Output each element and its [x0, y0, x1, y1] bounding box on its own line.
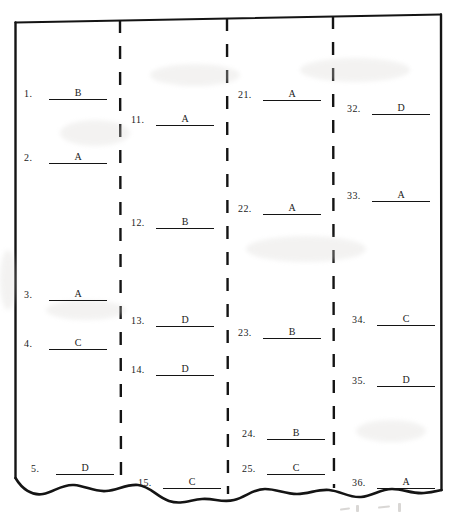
entry-answer[interactable]: D: [56, 462, 114, 475]
answer-entry: 32. D: [347, 103, 430, 116]
entry-number: 13.: [131, 315, 153, 326]
entry-answer[interactable]: A: [377, 476, 435, 489]
entry-number: 33.: [347, 190, 369, 201]
entry-answer[interactable]: A: [49, 151, 107, 164]
entry-number: 23.: [238, 327, 260, 338]
entry-answer[interactable]: C: [49, 337, 107, 350]
entry-number: 5.: [31, 463, 53, 474]
entry-number: 11.: [131, 114, 153, 125]
column-separator-1: [120, 20, 121, 481]
entry-number: 2.: [24, 152, 46, 163]
entry-number: 1.: [24, 88, 46, 99]
entry-answer[interactable]: A: [263, 202, 321, 215]
answer-entry: 5. D: [31, 463, 114, 476]
entry-answer[interactable]: D: [372, 102, 430, 115]
entry-number: 3.: [24, 289, 46, 300]
entry-number: 24.: [242, 428, 264, 439]
answer-sheet-fragment: 1. B 2. A 3. A 4. C 5. D 11. A 12. B 13.…: [0, 0, 458, 521]
entry-answer[interactable]: C: [267, 462, 325, 475]
scan-artifact: [356, 505, 359, 512]
answer-entry: 14. D: [131, 364, 214, 377]
answer-entry: 15. C: [138, 477, 221, 490]
entry-number: 14.: [131, 364, 153, 375]
answer-entry: 13. D: [131, 315, 214, 328]
paper-outline: [0, 0, 458, 521]
entry-answer[interactable]: C: [377, 313, 435, 326]
answer-entry: 36. A: [352, 477, 435, 490]
answer-entry: 23. B: [238, 327, 321, 340]
entry-number: 22.: [238, 203, 260, 214]
answer-entry: 1. B: [24, 88, 107, 101]
border-right: [441, 15, 442, 491]
answer-entry: 33. A: [347, 190, 430, 203]
answer-entry: 2. A: [24, 152, 107, 165]
entry-answer[interactable]: B: [267, 427, 325, 440]
entry-answer[interactable]: A: [263, 88, 321, 101]
entry-answer[interactable]: A: [156, 113, 214, 126]
entry-number: 35.: [352, 375, 374, 386]
answer-entry: 3. A: [24, 289, 107, 302]
scan-artifact: [398, 503, 401, 512]
answer-entry: 35. D: [352, 375, 435, 388]
column-separator-3: [333, 16, 334, 488]
answer-entry: 21. A: [238, 89, 321, 102]
entry-number: 36.: [352, 477, 374, 488]
border-top: [16, 15, 442, 23]
entry-answer[interactable]: C: [163, 476, 221, 489]
entry-answer[interactable]: A: [49, 288, 107, 301]
answer-entry: 11. A: [131, 114, 214, 127]
answer-entry: 25. C: [242, 463, 325, 476]
entry-answer[interactable]: B: [263, 326, 321, 339]
entry-number: 21.: [238, 89, 260, 100]
answer-entry: 24. B: [242, 428, 325, 441]
answer-entry: 12. B: [131, 217, 214, 230]
entry-number: 34.: [352, 314, 374, 325]
entry-number: 4.: [24, 338, 46, 349]
entry-number: 32.: [347, 103, 369, 114]
entry-number: 25.: [242, 463, 264, 474]
entry-answer[interactable]: D: [156, 314, 214, 327]
answer-entry: 4. C: [24, 338, 107, 351]
answer-entry: 34. C: [352, 314, 435, 327]
entry-answer[interactable]: B: [156, 216, 214, 229]
entry-answer[interactable]: D: [156, 363, 214, 376]
entry-answer[interactable]: A: [372, 189, 430, 202]
column-separator-2: [227, 18, 228, 494]
entry-number: 12.: [131, 217, 153, 228]
entry-answer[interactable]: B: [49, 87, 107, 100]
entry-number: 15.: [138, 477, 160, 488]
answer-entry: 22. A: [238, 203, 321, 216]
entry-answer[interactable]: D: [377, 374, 435, 387]
